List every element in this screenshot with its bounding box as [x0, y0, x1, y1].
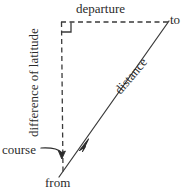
difference-of-latitude-line [62, 22, 64, 172]
right-angle-marker [62, 23, 72, 33]
distance-line [59, 21, 169, 177]
label-departure: departure [76, 2, 125, 15]
navigation-triangle-diagram: departure to from course difference of l… [0, 0, 188, 192]
course-callout-arrowhead [58, 151, 65, 160]
label-difference-of-latitude-text: difference of latitude [27, 28, 40, 137]
label-to: to [170, 13, 180, 26]
label-from: from [45, 176, 70, 189]
label-course: course [2, 143, 36, 156]
